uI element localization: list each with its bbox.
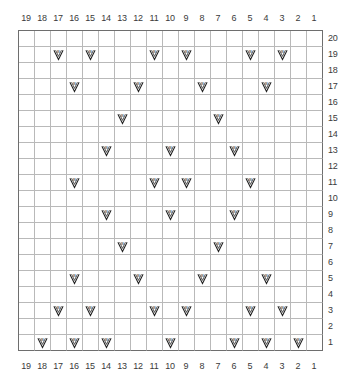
chart-cell-r10-c8[interactable]: [195, 191, 211, 207]
chart-cell-r18-c4[interactable]: [259, 63, 275, 79]
chart-cell-r3-c10[interactable]: [163, 303, 179, 319]
chart-cell-r9-c15[interactable]: [83, 207, 99, 223]
chart-cell-r9-c3[interactable]: [275, 207, 291, 223]
chart-cell-r12-c16[interactable]: [67, 159, 83, 175]
chart-cell-r15-c19[interactable]: [19, 111, 35, 127]
chart-cell-r6-c19[interactable]: [19, 255, 35, 271]
chart-cell-r14-c15[interactable]: [83, 127, 99, 143]
chart-cell-marked-r1-c18[interactable]: B: [35, 335, 51, 351]
chart-cell-r11-c10[interactable]: [163, 175, 179, 191]
chart-cell-r8-c5[interactable]: [243, 223, 259, 239]
chart-cell-r12-c10[interactable]: [163, 159, 179, 175]
chart-cell-r11-c1[interactable]: [307, 175, 323, 191]
chart-cell-r6-c4[interactable]: [259, 255, 275, 271]
chart-cell-r20-c11[interactable]: [147, 31, 163, 47]
chart-cell-r5-c18[interactable]: [35, 271, 51, 287]
chart-cell-r18-c9[interactable]: [179, 63, 195, 79]
chart-cell-r14-c11[interactable]: [147, 127, 163, 143]
chart-cell-marked-r1-c16[interactable]: B: [67, 335, 83, 351]
chart-cell-r15-c10[interactable]: [163, 111, 179, 127]
chart-cell-r18-c17[interactable]: [51, 63, 67, 79]
chart-cell-r14-c4[interactable]: [259, 127, 275, 143]
chart-cell-r20-c18[interactable]: [35, 31, 51, 47]
chart-cell-r8-c17[interactable]: [51, 223, 67, 239]
chart-cell-r16-c13[interactable]: [115, 95, 131, 111]
chart-cell-r7-c9[interactable]: [179, 239, 195, 255]
chart-cell-r9-c11[interactable]: [147, 207, 163, 223]
chart-cell-r1-c5[interactable]: [243, 335, 259, 351]
chart-cell-r14-c1[interactable]: [307, 127, 323, 143]
chart-cell-r16-c8[interactable]: [195, 95, 211, 111]
chart-cell-r1-c13[interactable]: [115, 335, 131, 351]
chart-cell-r13-c7[interactable]: [211, 143, 227, 159]
chart-cell-r20-c15[interactable]: [83, 31, 99, 47]
chart-cell-r15-c9[interactable]: [179, 111, 195, 127]
chart-cell-r5-c9[interactable]: [179, 271, 195, 287]
chart-cell-r10-c14[interactable]: [99, 191, 115, 207]
chart-cell-r13-c9[interactable]: [179, 143, 195, 159]
chart-cell-marked-r17-c4[interactable]: B: [259, 79, 275, 95]
chart-cell-r2-c12[interactable]: [131, 319, 147, 335]
chart-cell-r12-c7[interactable]: [211, 159, 227, 175]
chart-cell-r19-c8[interactable]: [195, 47, 211, 63]
chart-cell-r10-c2[interactable]: [291, 191, 307, 207]
chart-cell-r17-c14[interactable]: [99, 79, 115, 95]
chart-cell-r16-c18[interactable]: [35, 95, 51, 111]
chart-cell-r11-c7[interactable]: [211, 175, 227, 191]
chart-cell-r9-c18[interactable]: [35, 207, 51, 223]
chart-cell-r2-c13[interactable]: [115, 319, 131, 335]
chart-cell-r20-c16[interactable]: [67, 31, 83, 47]
chart-cell-r10-c17[interactable]: [51, 191, 67, 207]
chart-cell-r19-c2[interactable]: [291, 47, 307, 63]
chart-cell-marked-r9-c10[interactable]: B: [163, 207, 179, 223]
chart-cell-r13-c13[interactable]: [115, 143, 131, 159]
chart-cell-r18-c15[interactable]: [83, 63, 99, 79]
chart-cell-r6-c6[interactable]: [227, 255, 243, 271]
chart-cell-r11-c8[interactable]: [195, 175, 211, 191]
chart-cell-r16-c6[interactable]: [227, 95, 243, 111]
chart-cell-r16-c9[interactable]: [179, 95, 195, 111]
chart-cell-r10-c4[interactable]: [259, 191, 275, 207]
chart-cell-r7-c4[interactable]: [259, 239, 275, 255]
chart-cell-r14-c13[interactable]: [115, 127, 131, 143]
chart-cell-r10-c6[interactable]: [227, 191, 243, 207]
chart-cell-r15-c16[interactable]: [67, 111, 83, 127]
chart-cell-r2-c6[interactable]: [227, 319, 243, 335]
chart-cell-r17-c3[interactable]: [275, 79, 291, 95]
chart-cell-r4-c1[interactable]: [307, 287, 323, 303]
chart-cell-r12-c4[interactable]: [259, 159, 275, 175]
chart-cell-r6-c13[interactable]: [115, 255, 131, 271]
chart-cell-r8-c13[interactable]: [115, 223, 131, 239]
chart-cell-r19-c12[interactable]: [131, 47, 147, 63]
chart-cell-r20-c10[interactable]: [163, 31, 179, 47]
chart-cell-r5-c14[interactable]: [99, 271, 115, 287]
chart-cell-r9-c19[interactable]: [19, 207, 35, 223]
chart-cell-r2-c11[interactable]: [147, 319, 163, 335]
chart-cell-r14-c18[interactable]: [35, 127, 51, 143]
chart-cell-r7-c5[interactable]: [243, 239, 259, 255]
chart-cell-r15-c6[interactable]: [227, 111, 243, 127]
chart-cell-r4-c12[interactable]: [131, 287, 147, 303]
chart-cell-marked-r19-c11[interactable]: B: [147, 47, 163, 63]
chart-cell-marked-r3-c17[interactable]: B: [51, 303, 67, 319]
chart-cell-r12-c2[interactable]: [291, 159, 307, 175]
chart-cell-r15-c4[interactable]: [259, 111, 275, 127]
chart-cell-r2-c18[interactable]: [35, 319, 51, 335]
chart-cell-r18-c7[interactable]: [211, 63, 227, 79]
chart-cell-r10-c18[interactable]: [35, 191, 51, 207]
chart-cell-marked-r3-c5[interactable]: B: [243, 303, 259, 319]
chart-cell-r12-c17[interactable]: [51, 159, 67, 175]
chart-cell-r8-c18[interactable]: [35, 223, 51, 239]
chart-cell-r1-c7[interactable]: [211, 335, 227, 351]
chart-cell-r7-c11[interactable]: [147, 239, 163, 255]
chart-cell-r8-c4[interactable]: [259, 223, 275, 239]
chart-cell-r14-c12[interactable]: [131, 127, 147, 143]
chart-cell-r12-c1[interactable]: [307, 159, 323, 175]
chart-cell-r16-c4[interactable]: [259, 95, 275, 111]
chart-cell-r8-c8[interactable]: [195, 223, 211, 239]
chart-cell-r11-c14[interactable]: [99, 175, 115, 191]
chart-cell-r13-c19[interactable]: [19, 143, 35, 159]
chart-cell-r12-c12[interactable]: [131, 159, 147, 175]
chart-cell-marked-r13-c6[interactable]: B: [227, 143, 243, 159]
chart-cell-r5-c17[interactable]: [51, 271, 67, 287]
